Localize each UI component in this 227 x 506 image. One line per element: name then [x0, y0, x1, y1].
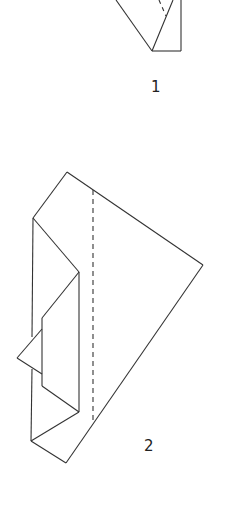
origami-diagram	[0, 0, 227, 506]
figure-1-label: 1	[151, 78, 161, 96]
figure-2-drawing	[17, 172, 203, 463]
figure-2-label: 2	[144, 437, 154, 455]
figure-1-drawing	[116, 0, 181, 51]
fold-line	[159, 0, 166, 16]
